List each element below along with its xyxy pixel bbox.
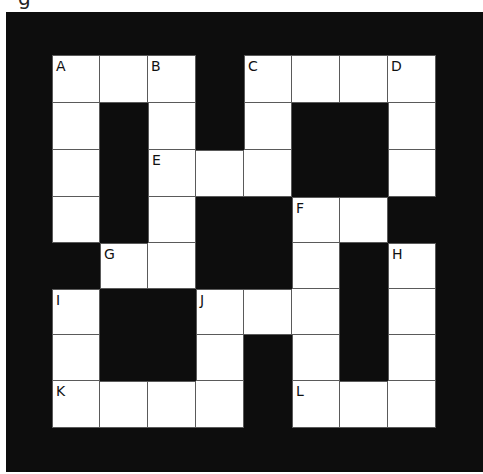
crossword-cell[interactable] bbox=[244, 103, 292, 150]
crossword-cell[interactable] bbox=[52, 335, 100, 381]
crossword-cell[interactable]: E bbox=[148, 150, 196, 197]
crossword-grid: ABCDEFGHIJKL bbox=[52, 55, 436, 428]
clue-number-label: B bbox=[151, 59, 161, 73]
crossword-cell[interactable] bbox=[388, 103, 436, 150]
crossword-cell[interactable] bbox=[388, 150, 436, 197]
blocked-cell bbox=[100, 150, 148, 197]
crossword-cell[interactable] bbox=[244, 289, 292, 335]
crossword-cell[interactable] bbox=[196, 381, 244, 428]
blocked-cell bbox=[196, 55, 244, 103]
crossword-cell[interactable] bbox=[292, 55, 340, 103]
crossword-cell[interactable] bbox=[292, 335, 340, 381]
blocked-cell bbox=[244, 197, 292, 243]
crossword-cell[interactable] bbox=[340, 381, 388, 428]
blocked-cell bbox=[340, 335, 388, 381]
blocked-cell bbox=[340, 103, 388, 150]
clue-number-label: L bbox=[296, 384, 304, 398]
crossword-cell[interactable] bbox=[292, 289, 340, 335]
clue-number-label: K bbox=[56, 384, 65, 398]
crossword-cell[interactable]: H bbox=[388, 243, 436, 289]
crossword-cell[interactable] bbox=[148, 197, 196, 243]
crossword-cell[interactable] bbox=[340, 197, 388, 243]
crossword-cell[interactable] bbox=[196, 150, 244, 197]
clue-number-label: I bbox=[56, 293, 60, 307]
blocked-cell bbox=[340, 289, 388, 335]
clue-number-label: F bbox=[296, 201, 304, 215]
crossword-cell[interactable]: F bbox=[292, 197, 340, 243]
blocked-cell bbox=[100, 197, 148, 243]
crossword-cell[interactable] bbox=[292, 243, 340, 289]
crossword-cell[interactable]: I bbox=[52, 289, 100, 335]
crossword-cell[interactable] bbox=[148, 381, 196, 428]
blocked-cell bbox=[292, 103, 340, 150]
caption-fragment: g bbox=[18, 0, 31, 8]
blocked-cell bbox=[244, 243, 292, 289]
crossword-cell[interactable] bbox=[52, 103, 100, 150]
blocked-cell bbox=[340, 150, 388, 197]
crossword-cell[interactable]: C bbox=[244, 55, 292, 103]
clue-number-label: G bbox=[104, 247, 115, 261]
crossword-cell[interactable]: K bbox=[52, 381, 100, 428]
crossword-cell[interactable]: J bbox=[196, 289, 244, 335]
blocked-cell bbox=[52, 243, 100, 289]
clue-number-label: A bbox=[56, 59, 66, 73]
blocked-cell bbox=[100, 103, 148, 150]
blocked-cell bbox=[388, 197, 436, 243]
blocked-cell bbox=[340, 243, 388, 289]
blocked-cell bbox=[148, 335, 196, 381]
crossword-cell[interactable] bbox=[100, 55, 148, 103]
crossword-cell[interactable] bbox=[388, 335, 436, 381]
crossword-cell[interactable]: D bbox=[388, 55, 436, 103]
crossword-cell[interactable] bbox=[340, 55, 388, 103]
clue-number-label: J bbox=[200, 293, 204, 307]
crossword-cell[interactable]: A bbox=[52, 55, 100, 103]
clue-number-label: D bbox=[391, 59, 402, 73]
crossword-cell[interactable] bbox=[52, 197, 100, 243]
crossword-cell[interactable] bbox=[52, 150, 100, 197]
crossword-cell[interactable] bbox=[196, 335, 244, 381]
crossword-cell[interactable]: G bbox=[100, 243, 148, 289]
clue-number-label: C bbox=[248, 59, 258, 73]
crossword-cell[interactable] bbox=[388, 289, 436, 335]
blocked-cell bbox=[244, 335, 292, 381]
blocked-cell bbox=[196, 243, 244, 289]
crossword-cell[interactable]: L bbox=[292, 381, 340, 428]
blocked-cell bbox=[100, 335, 148, 381]
crossword-cell[interactable] bbox=[100, 381, 148, 428]
blocked-cell bbox=[148, 289, 196, 335]
crossword-cell[interactable] bbox=[148, 103, 196, 150]
crossword-cell[interactable] bbox=[148, 243, 196, 289]
crossword-cell[interactable] bbox=[244, 150, 292, 197]
crossword-cell[interactable]: B bbox=[148, 55, 196, 103]
clue-number-label: H bbox=[392, 247, 403, 261]
crossword-cell[interactable] bbox=[388, 381, 436, 428]
blocked-cell bbox=[292, 150, 340, 197]
blocked-cell bbox=[100, 289, 148, 335]
blocked-cell bbox=[244, 381, 292, 428]
blocked-cell bbox=[196, 103, 244, 150]
blocked-cell bbox=[196, 197, 244, 243]
clue-number-label: E bbox=[152, 153, 161, 167]
